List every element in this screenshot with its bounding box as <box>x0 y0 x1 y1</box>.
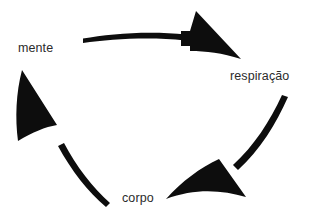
arrow-tail-right <box>233 95 288 170</box>
arrow-mente-to-respiracao <box>83 11 241 59</box>
node-label-corpo: corpo <box>122 192 154 205</box>
arrow-tail-left <box>58 143 110 207</box>
arrow-corpo-to-mente <box>16 70 110 207</box>
node-label-mente: mente <box>18 42 53 55</box>
arrow-head-left <box>16 70 57 141</box>
diagram-canvas: mente respiração corpo <box>0 0 310 222</box>
arrow-head-top <box>181 11 241 59</box>
arrow-respiracao-to-corpo <box>166 95 288 199</box>
cycle-arrows-graphic <box>0 0 310 222</box>
arrow-tail-top <box>83 33 186 43</box>
node-label-respiracao: respiração <box>230 70 289 83</box>
